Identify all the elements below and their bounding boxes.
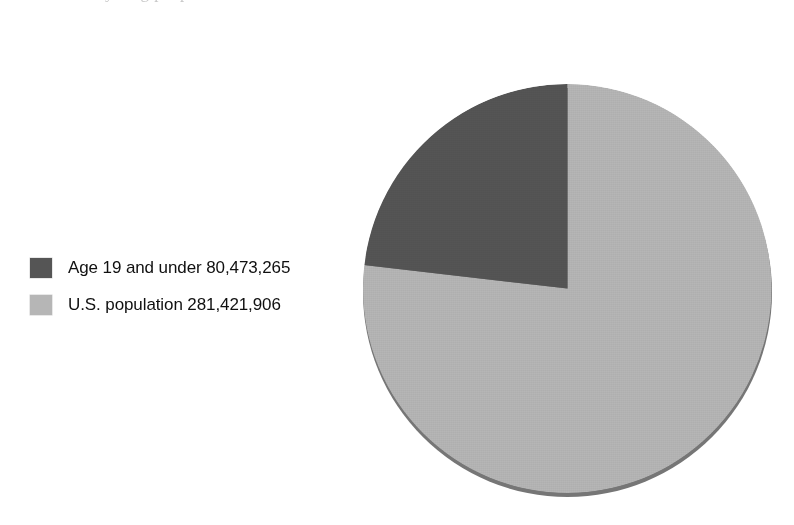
legend-item-label: U.S. population 281,421,906 <box>68 295 281 315</box>
legend-swatch-icon <box>30 295 52 315</box>
legend-item: U.S. population 281,421,906 <box>30 286 350 323</box>
legend-item-label: Age 19 and under 80,473,265 <box>68 258 290 278</box>
legend-swatch-icon <box>30 258 52 278</box>
pie-disc <box>363 84 772 493</box>
pie-graphic <box>363 84 772 493</box>
chart-legend: Age 19 and under 80,473,265 U.S. populat… <box>30 249 350 323</box>
pie-slice-age-19-and-under <box>364 84 568 289</box>
legend-item: Age 19 and under 80,473,265 <box>30 249 350 286</box>
pie-chart: Age 19 and under 80,473,265 U.S. populat… <box>0 0 794 525</box>
